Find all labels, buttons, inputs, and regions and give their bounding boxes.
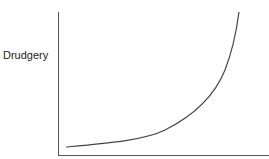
chart-plot xyxy=(0,0,269,159)
drudgery-curve xyxy=(66,12,239,147)
